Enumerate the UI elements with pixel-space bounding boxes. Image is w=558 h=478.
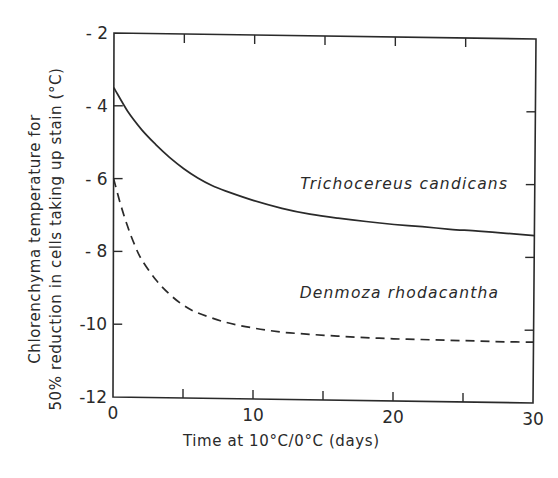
x-tick-label: 30 bbox=[522, 409, 544, 429]
y-tick-label: - 4 bbox=[85, 96, 107, 116]
y-axis-title-line-2: 50% reduction in cells taking up stain (… bbox=[47, 67, 65, 410]
y-tick-label: -10 bbox=[79, 314, 107, 334]
y-tick-label: - 2 bbox=[86, 23, 108, 43]
series-label-trichocereus-candicans: Trichocereus candicans bbox=[300, 175, 508, 193]
x-tick-label: 10 bbox=[242, 405, 264, 425]
line-chart: - 2- 4- 6- 8-10-120102030Trichocereus ca… bbox=[0, 0, 558, 478]
x-tick-label: 20 bbox=[382, 407, 404, 427]
x-axis-title: Time at 10°C/0°C (days) bbox=[182, 432, 380, 450]
series-line-denmoza-rhodacantha bbox=[114, 179, 534, 343]
series-line-trichocereus-candicans bbox=[114, 88, 535, 236]
plot-area: - 2- 4- 6- 8-10-120102030Trichocereus ca… bbox=[79, 23, 544, 429]
y-tick-label: -12 bbox=[79, 387, 107, 407]
y-tick-label: - 8 bbox=[85, 241, 107, 261]
plot-frame bbox=[113, 33, 536, 403]
y-axis-title-line-1: Chlorenchyma temperature for bbox=[26, 114, 44, 364]
series-label-denmoza-rhodacantha: Denmoza rhodacantha bbox=[300, 284, 500, 302]
y-tick-label: - 6 bbox=[85, 169, 107, 189]
x-tick-label: 0 bbox=[108, 403, 119, 423]
